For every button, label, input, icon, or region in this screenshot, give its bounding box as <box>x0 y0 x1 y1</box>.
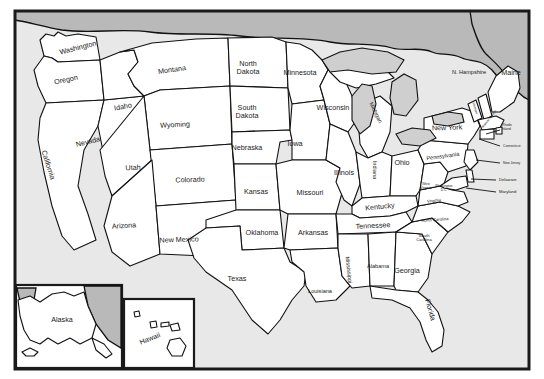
callout-label-delaware: Delaware <box>499 177 517 182</box>
state-label-iowa: Iowa <box>287 139 302 148</box>
us-states-map: WashingtonOregonCaliforniaIdahoNevadaMon… <box>0 0 544 379</box>
state-label-colorado: Colorado <box>175 174 204 184</box>
state-label-indiana: Indiana <box>372 161 378 180</box>
state-label-minnesota: Minnesota <box>283 68 316 77</box>
state-wyoming <box>144 86 232 150</box>
state-label-arkansas: Arkansas <box>298 228 328 237</box>
state-label-arizona: Arizona <box>111 220 136 231</box>
state-label-illinois: Illinois <box>334 168 354 177</box>
state-label-nebraska: Nebraska <box>232 143 263 152</box>
state-label-new-mexico: New Mexico <box>159 234 198 244</box>
state-label-oklahoma: Oklahoma <box>246 228 279 237</box>
callout-label-new-jersey: New Jersey <box>503 161 521 165</box>
callout-label-maryland: Maryland <box>499 189 517 194</box>
alaska-label: Alaska <box>51 315 73 324</box>
state-label-alabama: Alabama <box>367 263 390 269</box>
state-label-georgia: Georgia <box>394 266 420 275</box>
hawaii-inset: Hawaii <box>124 299 194 368</box>
hawaii-island-oahu <box>150 321 157 328</box>
state-label-wyoming: Wyoming <box>160 119 190 130</box>
state-label-tennessee: Tennessee <box>355 220 390 231</box>
alaska-inset: Alaska <box>16 285 122 368</box>
hawaii-island-maui <box>170 323 180 331</box>
state-label-utah: Utah <box>125 163 140 173</box>
hawaii-island-molokai <box>161 322 169 327</box>
callout-label-rhode-island: RhodeIsland <box>502 123 512 131</box>
state-label-ohio: Ohio <box>394 158 409 167</box>
state-label-north-dakota: NorthDakota <box>237 59 260 76</box>
hawaii-island-kauai <box>134 311 140 317</box>
state-label-wisconsin: Wisconsin <box>317 103 350 112</box>
state-label-texas: Texas <box>228 274 247 283</box>
state-ohio <box>390 150 424 196</box>
state-label-missouri: Missouri <box>297 188 324 197</box>
state-north-dakota <box>228 37 288 88</box>
state-label-kansas: Kansas <box>244 187 268 196</box>
state-label-south-dakota: SouthDakota <box>236 103 259 120</box>
state-label-louisiana: Louisiana <box>308 288 333 294</box>
state-label-new-york: New York <box>432 122 463 132</box>
state-alabama <box>368 232 396 286</box>
callout-label-connecticut: Connecticut <box>503 144 520 148</box>
state-label-maine: Maine <box>501 68 521 77</box>
state-label-new-hampshire: N. Hampshire <box>452 69 486 75</box>
